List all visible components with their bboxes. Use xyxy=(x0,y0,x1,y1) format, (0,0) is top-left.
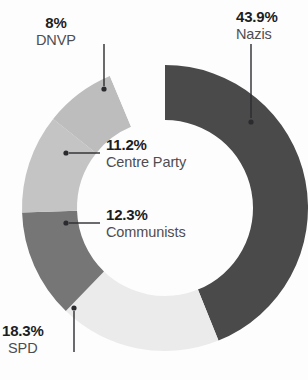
slice-label-dnvp-name: DNVP xyxy=(36,32,76,49)
slice-label-spd-percent: 18.3% xyxy=(2,322,44,340)
slice-label-centre-party: 11.2% Centre Party xyxy=(106,136,186,171)
slice-label-communists: 12.3% Communists xyxy=(106,206,186,241)
donut-chart-figure: 8% DNVP 43.9% Nazis 11.2% Centre Party 1… xyxy=(0,0,308,380)
slice-label-centre-party-name: Centre Party xyxy=(106,154,186,171)
slice-label-spd: 18.3% SPD xyxy=(2,322,44,357)
slice-label-dnvp: 8% DNVP xyxy=(36,14,76,49)
slice-label-nazis-name: Nazis xyxy=(236,26,278,43)
slice-label-communists-name: Communists xyxy=(106,224,186,241)
donut-chart xyxy=(0,0,308,380)
slice-label-spd-name: SPD xyxy=(2,340,44,357)
slice-label-nazis: 43.9% Nazis xyxy=(236,8,278,43)
donut-svg xyxy=(0,0,308,380)
slice-label-centre-party-percent: 11.2% xyxy=(106,136,186,154)
slice-label-nazis-percent: 43.9% xyxy=(236,8,278,26)
slice-label-communists-percent: 12.3% xyxy=(106,206,186,224)
slice-label-dnvp-percent: 8% xyxy=(36,14,76,32)
